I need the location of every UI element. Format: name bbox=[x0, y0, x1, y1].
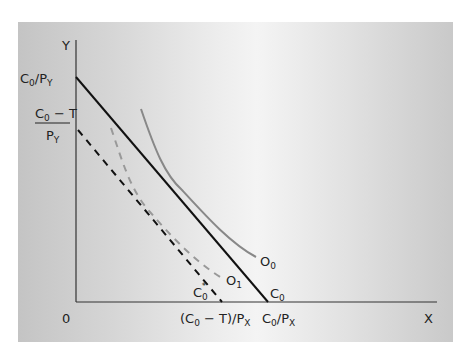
y-axis-label: Y bbox=[61, 38, 70, 53]
x-intercept-budget-label: C0/PX bbox=[262, 311, 295, 328]
budget-line-c0 bbox=[76, 77, 268, 302]
diagram-canvas: Y X 0 C0/PY C0 − T PY (C0 − T)/PX C0/PX … bbox=[0, 0, 471, 361]
origin-label: 0 bbox=[62, 311, 70, 326]
label-c0-star: C0* bbox=[193, 281, 208, 302]
label-o1: O1 bbox=[226, 273, 242, 290]
y-intercept-budget-label: C0/PY bbox=[20, 71, 53, 88]
indifference-curve-o1 bbox=[111, 128, 222, 278]
budget-line-c0-star bbox=[78, 130, 222, 302]
y-intercept-taxed-numerator: C0 − T bbox=[35, 106, 77, 123]
indifference-curve-o0 bbox=[141, 109, 256, 257]
x-axis-label: X bbox=[424, 311, 433, 326]
label-o0: O0 bbox=[260, 254, 276, 271]
y-intercept-taxed-denominator: PY bbox=[46, 128, 60, 145]
label-c0: C0 bbox=[270, 286, 285, 303]
x-intercept-taxed-label: (C0 − T)/PX bbox=[180, 311, 250, 328]
